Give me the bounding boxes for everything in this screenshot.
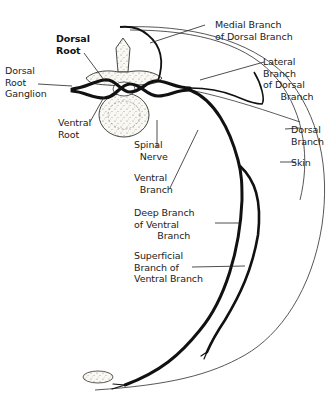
label-dorsal-branch: Dorsal Branch [291,124,324,147]
label-deep-branch: Deep Branch of Ventral Branch [134,207,194,242]
spinal-nerve-diagram: Dorsal Root Dorsal Root Ganglion Ventral… [0,0,336,412]
label-ventral-branch: Ventral Branch [134,172,173,195]
label-skin: Skin [291,157,311,169]
label-ventral-root: Ventral Root [58,117,91,140]
label-superficial-branch: Superficial Branch of Ventral Branch [134,250,203,285]
sternal-ellipse [83,371,113,383]
label-dorsal-root-ganglion: Dorsal Root Ganglion [5,65,47,100]
label-spinal-nerve: Spinal Nerve [134,139,168,162]
label-medial-branch: Medial Branch of Dorsal Branch [215,19,293,42]
label-lateral-branch: Lateral Branch of Dorsal Branch [263,56,313,102]
label-dorsal-root: Dorsal Root [56,33,90,56]
